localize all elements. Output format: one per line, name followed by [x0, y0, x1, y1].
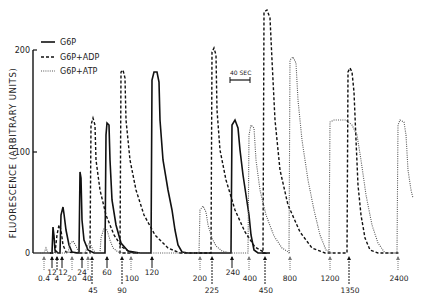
- fluorescence-chart: 200 100 0 FLUORESCENCE (ARBITRARY UNITS)…: [0, 0, 426, 305]
- scale-bar-label: 40 SEC: [230, 69, 251, 76]
- arrow-label-1350: 1350: [340, 286, 359, 295]
- arrow-label-800: 800: [283, 274, 298, 283]
- y-tick-0: 0: [25, 249, 30, 258]
- arrow-label-60: 60: [102, 268, 112, 277]
- arrow-label-40: 40: [82, 274, 92, 283]
- scale-bar: 40 SEC: [230, 69, 251, 83]
- y-tick-200: 200: [15, 46, 30, 55]
- arrow-label-45: 45: [88, 286, 98, 295]
- arrow-label-1200: 1200: [320, 274, 339, 283]
- arrow-label-2400: 2400: [389, 274, 408, 283]
- arrow-label-20: 20: [67, 274, 77, 283]
- legend: G6P G6P+ADP G6P+ATP: [41, 38, 99, 76]
- legend-g6p: G6P: [60, 38, 76, 47]
- arrow-label-100: 100: [125, 274, 140, 283]
- series-g6p-adp: [50, 10, 400, 253]
- legend-g6p-adp: G6P+ADP: [60, 53, 99, 62]
- arrow-label-90: 90: [117, 286, 127, 295]
- arrow-label-225: 225: [205, 286, 220, 295]
- y-axis: 200 100 0 FLUORESCENCE (ARBITRARY UNITS): [8, 46, 37, 258]
- arrow-label-400: 400: [243, 274, 258, 283]
- addition-arrows: 0.4 12 4 12 20 24 40 45 60 90: [38, 256, 409, 295]
- arrow-label-240: 240: [226, 268, 241, 277]
- arrow-label-200: 200: [193, 274, 208, 283]
- arrow-label-450: 450: [259, 286, 274, 295]
- y-axis-label: FLUORESCENCE (ARBITRARY UNITS): [8, 68, 18, 239]
- arrow-label-120: 120: [145, 268, 160, 277]
- series-g6p: [50, 72, 270, 253]
- legend-g6p-atp: G6P+ATP: [60, 67, 98, 76]
